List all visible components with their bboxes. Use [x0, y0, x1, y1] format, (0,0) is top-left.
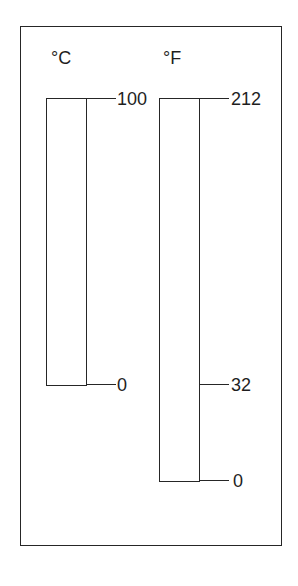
- celsius-tick-100: [86, 98, 116, 99]
- fahrenheit-tick-label-32: 32: [231, 376, 251, 394]
- celsius-tick-0: [86, 384, 116, 385]
- celsius-unit-label: °C: [51, 49, 71, 67]
- thermometer-diagram: °C 100 0 °F 212 32 0: [0, 0, 298, 586]
- fahrenheit-tick-label-0: 0: [233, 472, 243, 490]
- fahrenheit-tube: [159, 98, 200, 482]
- celsius-tick-label-0: 0: [117, 376, 127, 394]
- fahrenheit-tick-212: [199, 98, 229, 99]
- fahrenheit-tick-32: [199, 384, 229, 385]
- fahrenheit-unit-label: °F: [163, 49, 181, 67]
- celsius-tube: [46, 98, 87, 386]
- celsius-tick-label-100: 100: [117, 90, 147, 108]
- fahrenheit-tick-label-212: 212: [231, 90, 261, 108]
- fahrenheit-tick-0: [199, 480, 229, 481]
